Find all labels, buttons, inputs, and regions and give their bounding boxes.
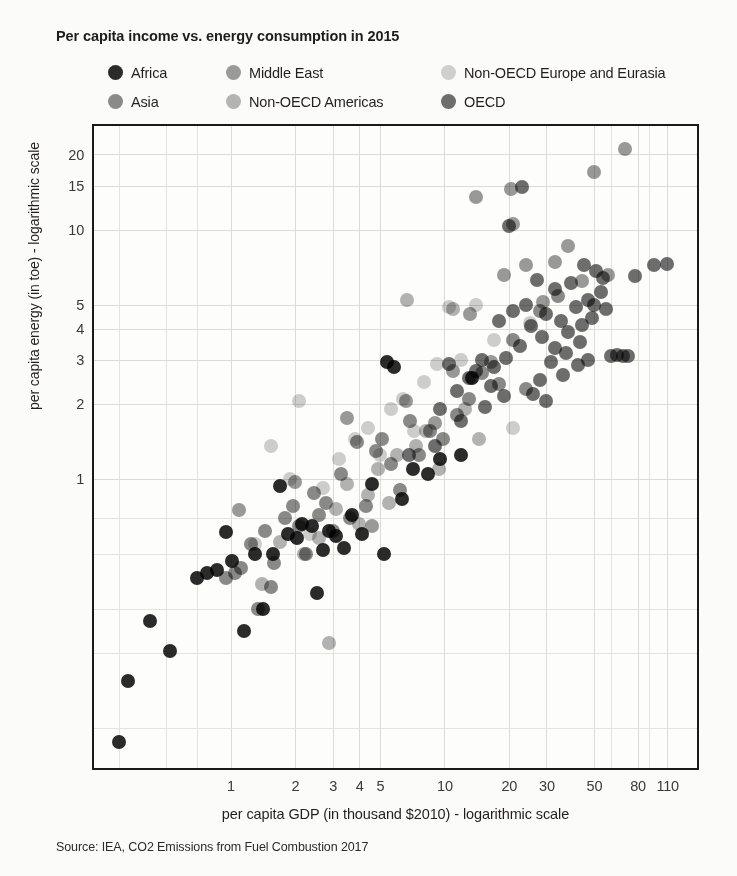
data-point <box>492 314 506 328</box>
legend-item-middle-east[interactable]: Middle East <box>226 65 441 81</box>
gridline-x-30 <box>546 126 547 768</box>
scatter-plot-area[interactable] <box>92 124 699 770</box>
data-point <box>400 293 414 307</box>
data-point <box>352 517 366 531</box>
data-point <box>519 258 533 272</box>
data-point <box>402 448 416 462</box>
gridline-x-minor-0.3 <box>119 126 120 768</box>
gridline-y-20 <box>94 154 697 155</box>
gridline-y-minor-0.5 <box>94 554 697 555</box>
data-point <box>484 379 498 393</box>
data-point <box>340 411 354 425</box>
data-point <box>121 674 135 688</box>
x-tick-label-50: 50 <box>574 778 614 794</box>
y-tick-label-3: 3 <box>44 352 84 368</box>
data-point <box>232 503 246 517</box>
data-point <box>497 389 511 403</box>
legend-label-middle-east: Middle East <box>249 65 323 81</box>
data-point <box>535 330 549 344</box>
data-point <box>519 298 533 312</box>
legend-item-oecd[interactable]: OECD <box>441 94 721 110</box>
data-point <box>618 142 632 156</box>
data-point <box>382 496 396 510</box>
gridline-x-10 <box>444 126 445 768</box>
data-point <box>442 300 456 314</box>
data-point <box>375 432 389 446</box>
data-point <box>472 432 486 446</box>
source-note: Source: IEA, CO2 Emissions from Fuel Com… <box>56 840 368 854</box>
data-point <box>469 190 483 204</box>
x-tick-label-5: 5 <box>361 778 401 794</box>
data-point <box>599 302 613 316</box>
x-tick-label-110: 110 <box>648 778 688 794</box>
data-point <box>326 524 340 538</box>
data-point <box>316 481 330 495</box>
data-point <box>258 524 272 538</box>
x-tick-label-20: 20 <box>489 778 529 794</box>
y-axis-title: per capita energy (in toe) - logarithmic… <box>26 26 42 526</box>
data-point <box>539 394 553 408</box>
data-point <box>237 624 251 638</box>
data-point <box>417 375 431 389</box>
data-point <box>548 255 562 269</box>
chart-legend: Africa Middle East Non-OECD Europe and E… <box>108 58 718 116</box>
legend-item-non-oecd-americas[interactable]: Non-OECD Americas <box>226 94 441 110</box>
data-point <box>564 276 578 290</box>
data-point <box>264 439 278 453</box>
chart-title: Per capita income vs. energy consumption… <box>56 28 399 44</box>
data-point <box>297 547 311 561</box>
gridline-x-minor-0.7 <box>197 126 198 768</box>
data-point <box>373 448 387 462</box>
legend-label-non-oecd-europe-eurasia: Non-OECD Europe and Eurasia <box>464 65 665 81</box>
data-point <box>548 282 562 296</box>
data-point <box>587 165 601 179</box>
legend-swatch-asia-icon <box>108 94 123 109</box>
gridline-y-minor-0.3 <box>94 609 697 610</box>
data-point <box>337 541 351 555</box>
data-point <box>428 439 442 453</box>
x-axis-title: per capita GDP (in thousand $2010) - log… <box>92 806 699 822</box>
data-point <box>561 325 575 339</box>
data-point <box>561 239 575 253</box>
gridline-x-2 <box>295 126 296 768</box>
y-tick-label-4: 4 <box>44 321 84 337</box>
legend-label-asia: Asia <box>131 94 159 110</box>
data-point <box>432 462 446 476</box>
gridline-y-10 <box>94 230 697 231</box>
data-point <box>497 268 511 282</box>
x-tick-label-1: 1 <box>211 778 251 794</box>
data-point <box>487 360 501 374</box>
data-point <box>506 421 520 435</box>
gridline-x-minor-0.5 <box>166 126 167 768</box>
data-point <box>513 339 527 353</box>
legend-item-non-oecd-europe-eurasia[interactable]: Non-OECD Europe and Eurasia <box>441 65 721 81</box>
data-point <box>530 273 544 287</box>
data-point <box>548 341 562 355</box>
data-point <box>454 414 468 428</box>
legend-swatch-middle-east-icon <box>226 65 241 80</box>
data-point <box>587 298 601 312</box>
legend-swatch-non-oecd-americas-icon <box>226 94 241 109</box>
legend-swatch-non-oecd-europe-eurasia-icon <box>441 65 456 80</box>
data-point <box>340 477 354 491</box>
data-point <box>454 353 468 367</box>
data-point <box>573 335 587 349</box>
data-point <box>469 298 483 312</box>
data-point <box>575 318 589 332</box>
data-point <box>251 602 265 616</box>
data-point <box>219 525 233 539</box>
x-tick-label-30: 30 <box>527 778 567 794</box>
data-point <box>544 355 558 369</box>
data-point <box>377 547 391 561</box>
gridline-x-1 <box>231 126 232 768</box>
data-point <box>556 368 570 382</box>
data-point <box>393 483 407 497</box>
gridline-y-1 <box>94 479 697 480</box>
data-point <box>407 424 421 438</box>
legend-item-africa[interactable]: Africa <box>108 65 226 81</box>
data-point <box>454 448 468 462</box>
legend-item-asia[interactable]: Asia <box>108 94 226 110</box>
data-point <box>303 527 317 541</box>
y-tick-label-2: 2 <box>44 396 84 412</box>
gridline-y-minor-0.7 <box>94 518 697 519</box>
